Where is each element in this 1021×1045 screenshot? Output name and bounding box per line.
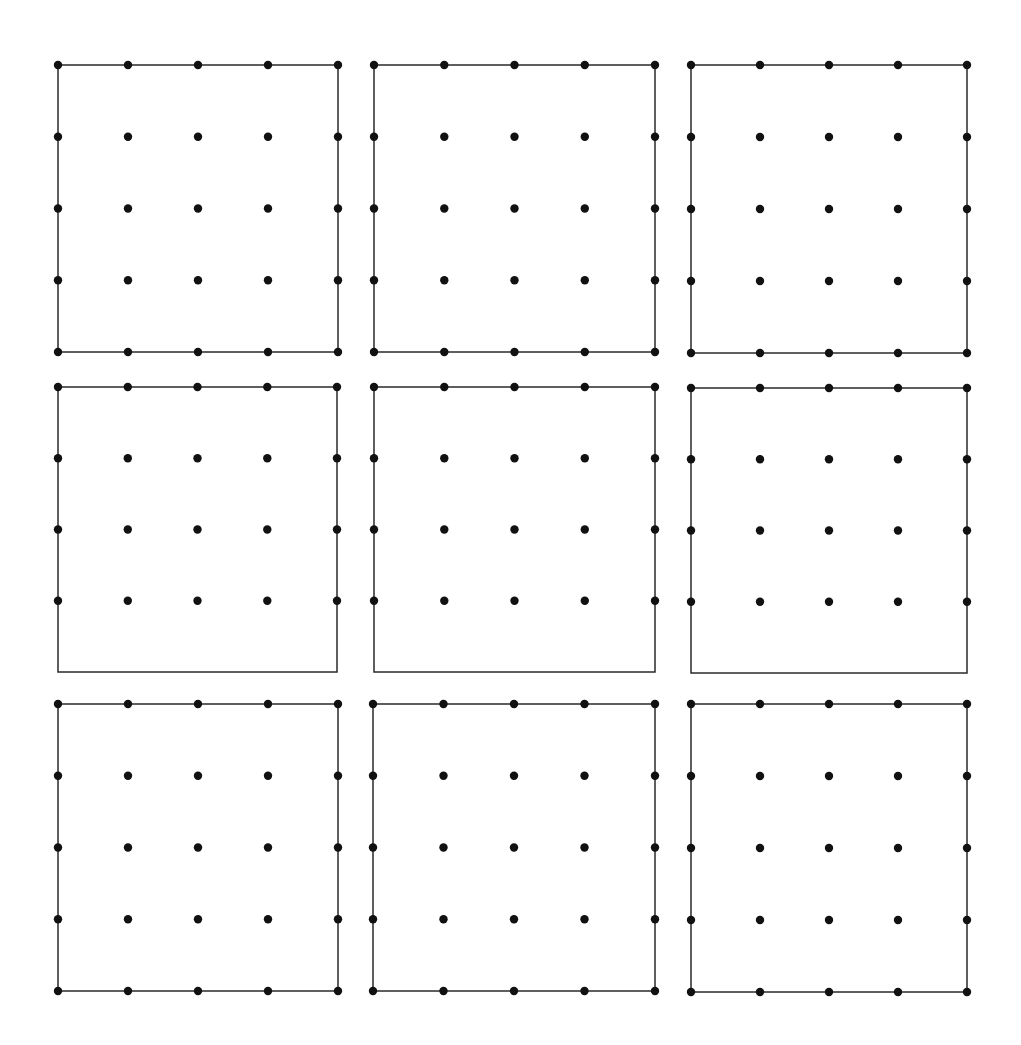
grid-dot [194,133,202,141]
grid-dot [124,133,132,141]
grid-dot [263,597,271,605]
grid-dot [581,454,589,462]
grid-dot [54,61,62,69]
grid-dot [756,277,764,285]
grid-dot [756,916,764,924]
grid-dot [581,133,589,141]
grid-dot [687,384,695,392]
grid-dot [370,133,378,141]
grid-dot [264,987,272,995]
grid-dot [54,383,62,391]
grid-dot [194,987,202,995]
grid-dot [54,915,62,923]
grid-dot [334,987,342,995]
grid-dot [581,61,589,69]
grid-dot [756,772,764,780]
grid-dot [334,133,342,141]
grid-dot [651,843,659,851]
grid-dot [370,383,378,391]
grid-dot [334,843,342,851]
grid-dot [54,843,62,851]
grid-dot [963,844,971,852]
grid-dot [894,526,902,534]
grid-dot [440,348,448,356]
grid-dot [651,276,659,284]
grid-dot [963,277,971,285]
grid-dot [963,455,971,463]
grid-dot [124,597,132,605]
grid-dot [963,349,971,357]
grid-dot [333,383,341,391]
grid-dot [894,772,902,780]
grid-dot [510,454,518,462]
dot-grid-panel-r1c2 [370,61,659,356]
grid-dot [510,61,518,69]
grid-dot [333,597,341,605]
grid-dot [334,348,342,356]
grid-dot [370,61,378,69]
grid-dot [264,843,272,851]
grid-dot [581,383,589,391]
grid-dot [651,987,659,995]
grid-dot [54,204,62,212]
grid-dot [581,597,589,605]
grid-dot [651,61,659,69]
grid-dot [264,204,272,212]
grid-dot [333,525,341,533]
grid-dot [439,843,447,851]
grid-dot [825,205,833,213]
grid-dot [580,700,588,708]
grid-dot [687,205,695,213]
grid-dot [687,988,695,996]
grid-dot [193,525,201,533]
grid-dot [194,348,202,356]
grid-dot [581,276,589,284]
grid-dot [510,987,518,995]
grid-dot [894,205,902,213]
grid-dot [825,61,833,69]
grid-dot [687,598,695,606]
dot-grid-panel-r1c3 [687,61,971,357]
grid-dot [369,915,377,923]
grid-dot [510,597,518,605]
grid-dot [193,383,201,391]
grid-dot [580,987,588,995]
grid-dot [510,133,518,141]
grid-dot [894,598,902,606]
grid-dot [439,700,447,708]
grid-dot [370,525,378,533]
grid-dot [334,276,342,284]
grid-dot [54,348,62,356]
grid-dot [334,61,342,69]
grid-dot [510,525,518,533]
grid-dot [963,205,971,213]
grid-dot [756,844,764,852]
grid-dot [651,383,659,391]
grid-dot [124,276,132,284]
grid-dot [581,525,589,533]
grid-dot [194,843,202,851]
grid-dot [651,133,659,141]
grid-dot [124,915,132,923]
grid-dot [756,598,764,606]
grid-dot [370,204,378,212]
grid-dot [825,772,833,780]
grid-dot [963,384,971,392]
grid-dot [894,916,902,924]
grid-dot [651,348,659,356]
grid-dot [440,204,448,212]
dot-grid-panel-r2c2 [370,383,659,672]
grid-dot [756,526,764,534]
grid-dot [963,526,971,534]
grid-dot [651,525,659,533]
grid-dot [510,700,518,708]
grid-dot [440,454,448,462]
grid-dot [264,348,272,356]
grid-dot [124,987,132,995]
grid-dot [194,61,202,69]
dot-grid-panel-r3c1 [54,700,342,995]
grid-dot [756,133,764,141]
grid-dot [963,916,971,924]
grid-dot [756,205,764,213]
grid-dot [687,349,695,357]
